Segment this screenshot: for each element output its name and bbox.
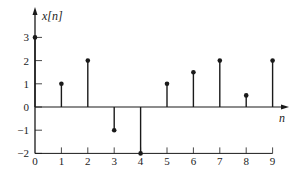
y-tick-label: 2	[24, 55, 30, 67]
x-tick-label: 9	[270, 155, 276, 167]
x-tick-label: 2	[85, 155, 91, 167]
x-tick-label: 6	[191, 155, 197, 167]
stem-marker	[165, 82, 170, 87]
y-tick-label: 1	[24, 78, 30, 90]
stem-marker	[244, 93, 249, 98]
y-axis-arrow-icon	[33, 7, 38, 15]
labels: 3210−1−20123456789x[n]n	[17, 9, 285, 167]
stem-plot: 3210−1−20123456789x[n]n	[0, 0, 300, 181]
x-tick-label: 1	[59, 155, 65, 167]
y-axis-label: x[n]	[41, 9, 63, 23]
stem-marker	[270, 58, 275, 63]
y-tick-label: −1	[17, 124, 29, 136]
stem-marker	[191, 70, 196, 75]
stem-marker	[33, 35, 38, 40]
x-tick-label: 7	[217, 155, 223, 167]
stem-marker	[59, 82, 64, 87]
plot-frame	[33, 7, 290, 153]
stems	[33, 35, 275, 156]
x-axis-arrow-icon	[281, 105, 289, 110]
x-tick-label: 0	[32, 155, 38, 167]
y-tick-label: 0	[24, 101, 30, 113]
stem-marker	[218, 58, 223, 63]
x-tick-label: 3	[111, 155, 117, 167]
stem-marker	[86, 58, 91, 63]
y-tick-label: −2	[17, 147, 29, 159]
x-tick-label: 8	[243, 155, 249, 167]
x-tick-label: 5	[164, 155, 170, 167]
x-axis-label: n	[279, 111, 285, 125]
x-tick-label: 4	[138, 155, 144, 167]
stem-marker	[112, 128, 117, 133]
y-tick-label: 3	[24, 31, 30, 43]
